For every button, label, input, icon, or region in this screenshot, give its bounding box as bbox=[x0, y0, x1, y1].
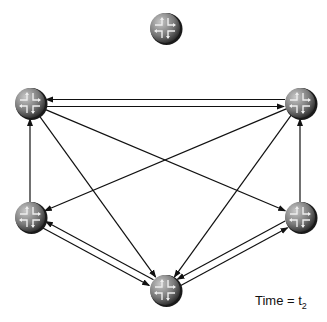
link-arrow-top-right-to-bottom bbox=[174, 115, 291, 277]
network-diagram: Time = t2 bbox=[0, 0, 327, 322]
router-icon bbox=[15, 88, 48, 120]
link-arrow-top-left-to-bottom bbox=[39, 115, 156, 277]
router-icon bbox=[150, 13, 183, 45]
time-caption: Time = t2 bbox=[255, 293, 307, 311]
router-icon bbox=[285, 202, 318, 234]
diagram-canvas bbox=[0, 0, 327, 322]
link-arrow-mid-left-to-bottom bbox=[42, 227, 150, 285]
router-icon bbox=[150, 275, 183, 307]
router-icon bbox=[15, 202, 48, 234]
router-icon bbox=[285, 88, 318, 120]
link-arrow-bottom-to-mid-right bbox=[180, 228, 288, 286]
